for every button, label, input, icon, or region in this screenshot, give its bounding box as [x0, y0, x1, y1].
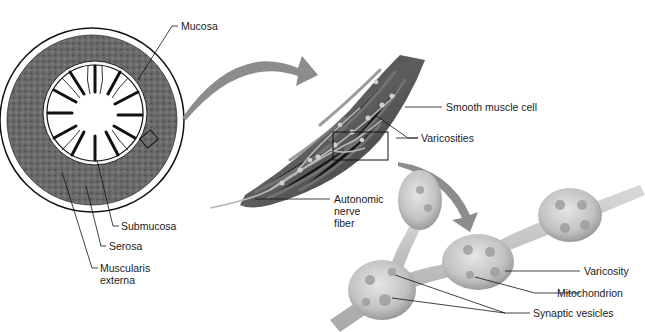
label-muscularis-externa-line2: externa	[100, 274, 135, 286]
label-submucosa: Submucosa	[121, 220, 176, 232]
magnify-arrow-1	[182, 56, 318, 120]
varicosity-3	[538, 188, 602, 242]
varicosity-top	[398, 170, 442, 230]
label-autonomic-nerve-fiber-line1: Autonomic	[334, 193, 384, 205]
label-varicosities: Varicosities	[421, 132, 474, 144]
smooth-muscle-band	[210, 55, 425, 208]
label-smooth-muscle-cell: Smooth muscle cell	[446, 101, 537, 113]
label-mitochondrion: Mitochondrion	[557, 287, 623, 299]
label-muscularis-externa-line1: Muscularis	[100, 262, 150, 274]
label-mucosa: Mucosa	[181, 20, 218, 32]
varicosity-2	[442, 234, 514, 290]
label-autonomic-nerve-fiber-line2: nerve	[334, 205, 360, 217]
varicosity-1	[348, 260, 416, 320]
label-serosa: Serosa	[109, 240, 142, 252]
diagram-canvas: Mucosa Submucosa Serosa Muscularis exter…	[0, 0, 645, 332]
diagram-svg	[0, 0, 645, 332]
intestine-cross-section	[0, 28, 184, 212]
label-synaptic-vesicles: Synaptic vesicles	[533, 307, 614, 319]
label-autonomic-nerve-fiber-line3: fiber	[334, 217, 354, 229]
label-varicosity: Varicosity	[584, 265, 629, 277]
